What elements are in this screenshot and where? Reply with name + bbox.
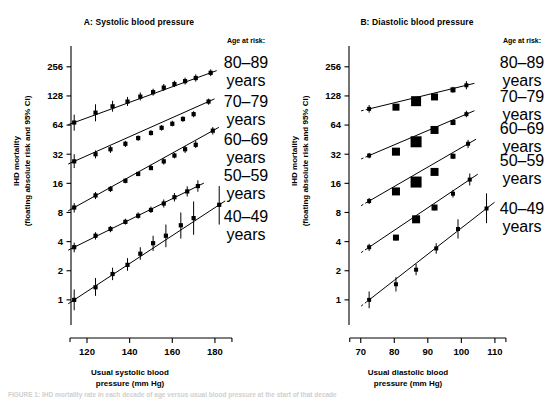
panel-a-x-axis-label-line1: Usual systolic blood [20, 367, 240, 378]
legend-age-range: 60–69 [494, 120, 550, 138]
panel-a-x-axis-label: Usual systolic blood pressure (mm Hg) [20, 367, 240, 389]
svg-text:64: 64 [330, 119, 341, 130]
panel-diastolic: B: Diastolic blood pressure IHD mortalit… [278, 0, 556, 380]
svg-text:70: 70 [355, 346, 366, 357]
panel-b-legend-item-60-69: 60–69 years [494, 120, 550, 156]
panel-a-legend: Age at risk: [218, 36, 274, 46]
svg-text:2: 2 [58, 265, 63, 276]
svg-text:256: 256 [325, 61, 341, 72]
legend-age-range: 80–89 [494, 54, 550, 72]
panel-a-legend-item-70-79: 70–79 years [218, 93, 274, 129]
legend-age-unit: years [218, 72, 274, 90]
legend-age-unit: years [218, 226, 274, 244]
svg-text:8: 8 [58, 207, 63, 218]
svg-text:160: 160 [164, 346, 180, 357]
svg-text:64: 64 [52, 119, 63, 130]
svg-text:32: 32 [330, 149, 341, 160]
panel-a-legend-item-80-89: 80–89 years [218, 54, 274, 90]
legend-age-unit: years [494, 170, 550, 188]
panel-systolic: A: Systolic blood pressure IHD mortality… [0, 0, 278, 380]
figure-ihd-mortality-vs-blood-pressure: A: Systolic blood pressure IHD mortality… [0, 0, 556, 401]
svg-text:4: 4 [336, 236, 342, 247]
svg-text:256: 256 [47, 61, 63, 72]
svg-text:1: 1 [58, 294, 64, 305]
svg-text:16: 16 [52, 178, 63, 189]
svg-text:180: 180 [207, 346, 223, 357]
svg-text:8: 8 [336, 207, 341, 218]
legend-age-range: 40–49 [218, 208, 274, 226]
panel-a-legend-header: Age at risk: [218, 36, 274, 46]
svg-text:32: 32 [52, 149, 63, 160]
panel-a-legend-item-60-69: 60–69 years [218, 131, 274, 167]
panel-a-legend-item-50-59: 50–59 years [218, 167, 274, 203]
panel-b-x-axis-label-line1: Usual diastolic blood [298, 367, 518, 378]
panel-a-x-axis-label-line2: pressure (mm Hg) [20, 378, 240, 389]
svg-text:120: 120 [79, 346, 95, 357]
svg-text:2: 2 [336, 265, 341, 276]
legend-age-range: 50–59 [218, 167, 274, 185]
legend-age-range: 70–79 [494, 88, 550, 106]
panel-a-legend-item-40-49: 40–49 years [218, 208, 274, 244]
panel-b-legend: Age at risk: [492, 36, 552, 46]
panel-b-legend-item-40-49: 40–49 years [494, 200, 550, 236]
svg-text:4: 4 [58, 236, 64, 247]
figure-caption: FIGURE 1: IHD mortality rate in each dec… [8, 391, 548, 400]
svg-text:128: 128 [325, 90, 341, 101]
legend-age-range: 70–79 [218, 93, 274, 111]
legend-age-unit: years [218, 185, 274, 203]
panel-b-legend-header: Age at risk: [492, 36, 552, 46]
svg-text:110: 110 [487, 346, 502, 357]
svg-text:128: 128 [47, 90, 63, 101]
legend-age-range: 80–89 [218, 54, 274, 72]
svg-text:90: 90 [423, 346, 434, 357]
legend-age-unit: years [218, 111, 274, 129]
svg-text:16: 16 [330, 178, 341, 189]
legend-age-range: 60–69 [218, 131, 274, 149]
svg-text:80: 80 [389, 346, 400, 357]
panel-b-legend-item-80-89: 80–89 years [494, 54, 550, 90]
legend-age-range: 40–49 [494, 200, 550, 218]
svg-text:1: 1 [336, 294, 342, 305]
svg-text:100: 100 [453, 346, 469, 357]
legend-age-range: 50–59 [494, 152, 550, 170]
panel-b-x-axis-label: Usual diastolic blood pressure (mm Hg) [298, 367, 518, 389]
panel-b-legend-item-70-79: 70–79 years [494, 88, 550, 124]
legend-age-unit: years [494, 218, 550, 236]
panel-b-x-axis-label-line2: pressure (mm Hg) [298, 378, 518, 389]
svg-text:140: 140 [122, 346, 138, 357]
panel-b-legend-item-50-59: 50–59 years [494, 152, 550, 188]
legend-age-unit: years [218, 149, 274, 167]
